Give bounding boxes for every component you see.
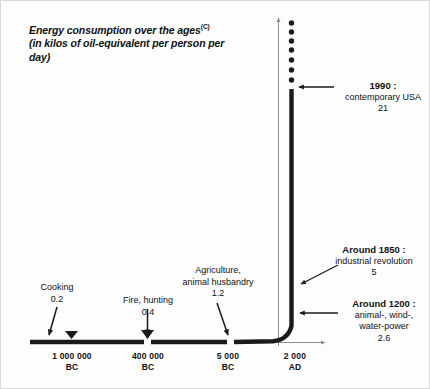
x-tick-label-5000bc: 5 000 BC: [196, 351, 260, 373]
annotation-1990-usa: 1990 : contemporary USA 21: [337, 80, 429, 115]
x-tick-label-5000bc-era: BC: [196, 362, 260, 373]
x-tick-label-2000ad-value: 2 000: [284, 351, 306, 361]
annotation-1200-medieval-label-2: water-power: [339, 321, 429, 333]
annotation-1850-industrial-value: 5: [319, 267, 429, 279]
x-tick-label-1000000bc-era: BC: [31, 362, 113, 373]
annotation-fire-hunting-value: 0.4: [105, 307, 191, 319]
x-tick-label-1000000bc: 1 000 000 BC: [31, 351, 113, 373]
x-tick-label-5000bc-value: 5 000: [217, 351, 239, 361]
x-tick-label-400000bc: 400 000 BC: [111, 351, 185, 373]
energy-consumption-chart: Energy consumption over the ages(C) (in …: [0, 0, 430, 389]
annotation-1990-usa-value: 21: [337, 103, 429, 115]
annotation-1200-medieval-head: Around 1200 :: [339, 298, 429, 310]
x-tick-label-2000ad-era: AD: [263, 362, 327, 373]
curve-dotted-extension: [289, 20, 294, 82]
annotation-1850-industrial: Around 1850 : industrial revolution 5: [319, 244, 429, 279]
x-tick-label-2000ad: 2 000 AD: [263, 351, 327, 373]
annotation-1850-industrial-head: Around 1850 :: [319, 244, 429, 256]
annotation-agriculture-label-2: animal husbandry: [167, 277, 269, 289]
annotation-agriculture-value: 1.2: [167, 288, 269, 300]
annotation-1990-usa-head: 1990 :: [337, 80, 429, 92]
x-tick-label-400000bc-value: 400 000: [132, 351, 164, 361]
annotation-cooking-value: 0.2: [20, 294, 94, 306]
x-tick-mark-1000000bc: [65, 331, 78, 339]
annotation-1990-usa-label: contemporary USA: [337, 92, 429, 104]
arrow-cooking: [49, 307, 57, 335]
arrow-agriculture: [217, 303, 228, 335]
annotation-1200-medieval-label-1: animal-, wind-,: [339, 310, 429, 322]
annotation-agriculture-label-1: Agriculture,: [167, 265, 269, 277]
curve-hockey-stick: [234, 89, 292, 342]
x-tick-label-400000bc-era: BC: [111, 362, 185, 373]
annotation-1850-industrial-label: industrial revolution: [319, 256, 429, 268]
annotation-cooking-label: Cooking: [20, 282, 94, 294]
annotation-1200-medieval-value: 2.6: [339, 333, 429, 345]
annotation-agriculture: Agriculture, animal husbandry 1.2: [167, 265, 269, 300]
annotation-cooking: Cooking 0.2: [20, 282, 94, 305]
x-tick-label-1000000bc-value: 1 000 000: [52, 351, 92, 361]
annotation-1200-medieval: Around 1200 : animal-, wind-, water-powe…: [339, 298, 429, 344]
